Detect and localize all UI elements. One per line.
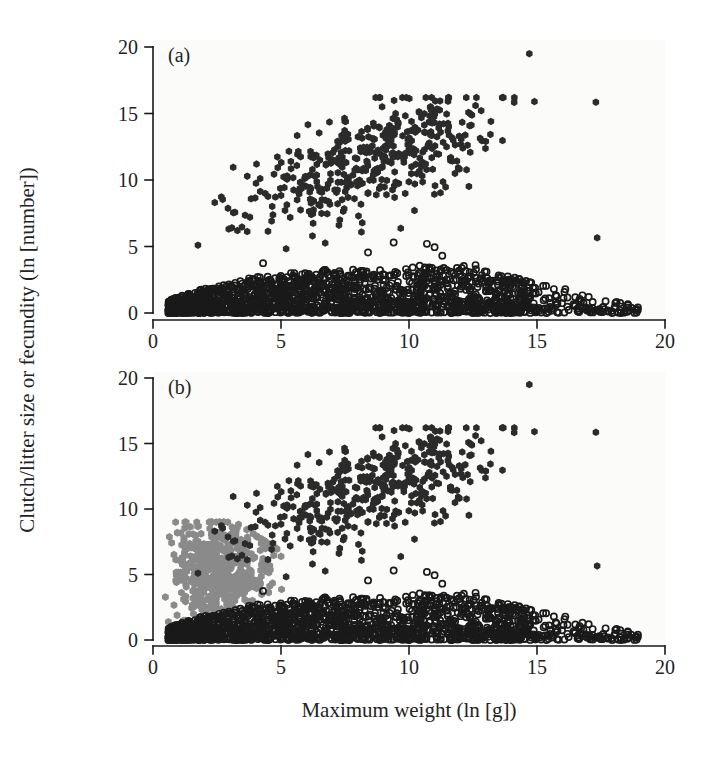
y-tick-label: 0 [128,302,138,324]
y-tick-label: 0 [128,629,138,651]
x-tick-label: 15 [527,656,547,678]
x-tick-label: 20 [655,330,675,352]
x-axis-title: Maximum weight (ln [g]) [301,698,516,722]
panel-a-tag: (a) [168,44,190,67]
figure-container: 0510152005101520 (a) 0510152005101520 (b… [0,0,712,760]
scatter-figure: 0510152005101520 (a) 0510152005101520 (b… [0,0,712,760]
x-tick-label: 5 [276,330,286,352]
y-tick-label: 15 [118,433,138,455]
panel-b: 0510152005101520 (b) [118,367,675,678]
y-tick-label: 5 [128,564,138,586]
panel-b-tag: (b) [168,376,191,399]
y-axis-title: Clutch/litter size or fecundity (ln [num… [15,167,39,533]
panel-a: 0510152005101520 (a) [118,36,675,352]
x-tick-label: 0 [148,330,158,352]
y-tick-label: 5 [128,236,138,258]
y-tick-label: 10 [118,498,138,520]
x-tick-label: 10 [399,656,419,678]
x-tick-label: 15 [527,330,547,352]
x-tick-label: 20 [655,656,675,678]
y-tick-label: 15 [118,103,138,125]
x-tick-label: 0 [148,656,158,678]
x-tick-label: 10 [399,330,419,352]
y-tick-label: 10 [118,169,138,191]
x-tick-label: 5 [276,656,286,678]
y-tick-label: 20 [118,36,138,58]
y-tick-label: 20 [118,367,138,389]
